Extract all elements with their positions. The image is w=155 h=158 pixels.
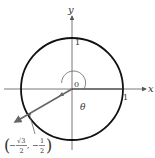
y-axis-label: y (67, 4, 74, 15)
x-axis-label: x (148, 83, 154, 94)
point-label-close-paren: ) (46, 136, 52, 155)
point-label-minus1: − (9, 141, 16, 150)
theta-label: θ (80, 102, 86, 112)
point-pointer (30, 116, 35, 134)
point-label: ( − √3 2 , − 1 2 ) (4, 136, 52, 155)
point-label-den1: 2 (20, 147, 24, 155)
point-label-sqrt3: √3 (17, 137, 25, 145)
point-marker (28, 113, 31, 116)
unit-circle-diagram: y x 0 1 1 θ ( − √3 2 , − 1 2 ) (0, 0, 155, 158)
x-tick-label: 1 (123, 93, 128, 102)
point-label-den2: 2 (40, 147, 44, 155)
point-label-num2: 1 (40, 137, 44, 145)
point-label-comma: , − (27, 141, 39, 150)
origin-label: 0 (74, 80, 79, 89)
y-tick-label: 1 (75, 38, 80, 47)
